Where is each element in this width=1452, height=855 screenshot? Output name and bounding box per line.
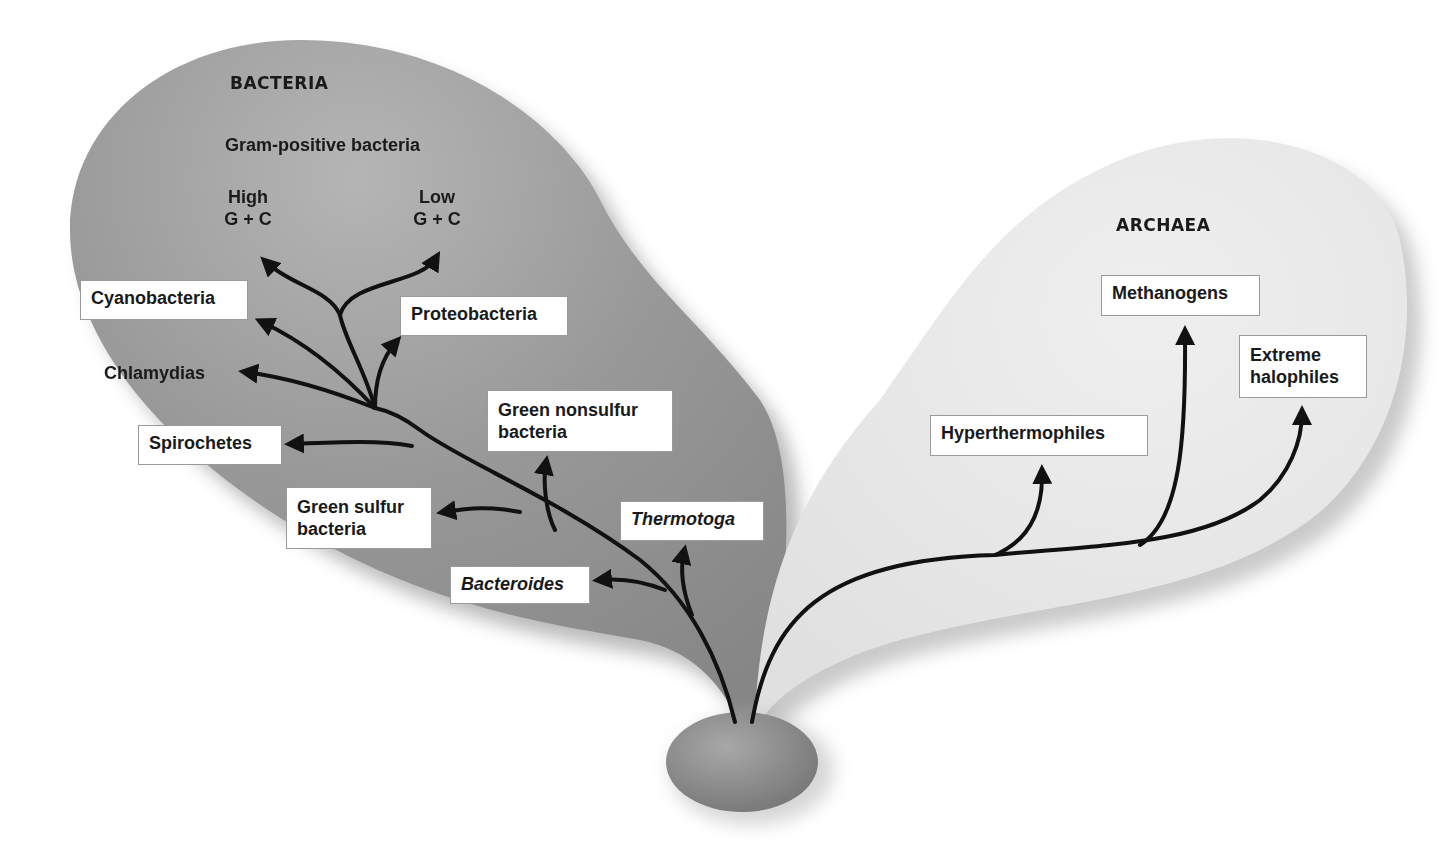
label-extreme-halophiles: Extreme halophiles	[1239, 335, 1367, 398]
label-cyanobacteria: Cyanobacteria	[80, 280, 248, 320]
label-thermotoga: Thermotoga	[620, 501, 764, 541]
low-gc-line1: Low	[404, 186, 470, 208]
archaea-title: ARCHAEA	[1116, 214, 1210, 236]
label-green-sulfur-bacteria: Green sulfur bacteria	[286, 487, 432, 549]
low-gc-label: Low G + C	[404, 186, 470, 230]
green-sulfur-line1: Green sulfur	[297, 496, 421, 518]
label-hyperthermophiles: Hyperthermophiles	[930, 415, 1148, 456]
universal-ancestor-root	[666, 712, 818, 812]
high-gc-label: High G + C	[215, 186, 281, 230]
label-proteobacteria: Proteobacteria	[400, 296, 568, 336]
label-methanogens: Methanogens	[1101, 275, 1260, 316]
extreme-halophiles-line1: Extreme	[1250, 344, 1356, 366]
green-nonsulfur-line2: bacteria	[498, 421, 662, 443]
label-bacteroides: Bacteroides	[450, 566, 590, 604]
low-gc-line2: G + C	[404, 208, 470, 230]
label-chlamydias: Chlamydias	[104, 362, 205, 384]
high-gc-line1: High	[215, 186, 281, 208]
label-green-nonsulfur-bacteria: Green nonsulfur bacteria	[487, 390, 673, 452]
label-spirochetes: Spirochetes	[138, 425, 282, 465]
extreme-halophiles-line2: halophiles	[1250, 366, 1356, 388]
green-sulfur-line2: bacteria	[297, 518, 421, 540]
bacteria-title: BACTERIA	[230, 72, 328, 94]
gram-positive-label: Gram-positive bacteria	[225, 134, 420, 156]
high-gc-line2: G + C	[215, 208, 281, 230]
green-nonsulfur-line1: Green nonsulfur	[498, 399, 662, 421]
